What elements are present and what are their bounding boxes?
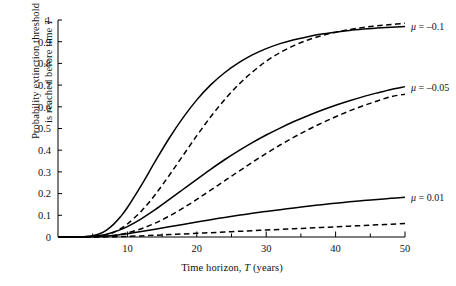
plot-canvas: 00.10.20.30.40.50.60.70.80.911020304050μ… — [0, 0, 456, 286]
y-tick-label: 0.6 — [38, 102, 51, 113]
extinction-probability-chart: Probability extinction threshold is reac… — [0, 0, 456, 286]
y-tick-label: 1 — [46, 15, 51, 26]
x-tick-label: 20 — [192, 243, 203, 254]
series-curve — [58, 27, 405, 238]
series-curve — [58, 23, 405, 237]
y-tick-label: 0.4 — [38, 145, 52, 156]
x-tick-label: 50 — [400, 243, 411, 254]
y-tick-label: 0.2 — [38, 188, 51, 199]
series-curve — [58, 94, 405, 237]
x-tick-label: 10 — [122, 243, 133, 254]
series-annotation-label: μ = –0.05 — [410, 82, 449, 93]
y-tick-label: 0.9 — [38, 37, 51, 48]
y-tick-label: 0.3 — [38, 167, 51, 178]
y-tick-label: 0.5 — [38, 123, 51, 134]
series-annotation-label: μ = 0.01 — [410, 192, 444, 203]
y-tick-label: 0 — [46, 232, 51, 243]
x-tick-label: 30 — [261, 243, 272, 254]
y-tick-label: 0.7 — [38, 80, 51, 91]
y-tick-label: 0.8 — [38, 58, 51, 69]
x-tick-label: 40 — [330, 243, 341, 254]
series-annotation-label: μ = –0.1 — [410, 21, 444, 32]
y-tick-label: 0.1 — [38, 210, 51, 221]
